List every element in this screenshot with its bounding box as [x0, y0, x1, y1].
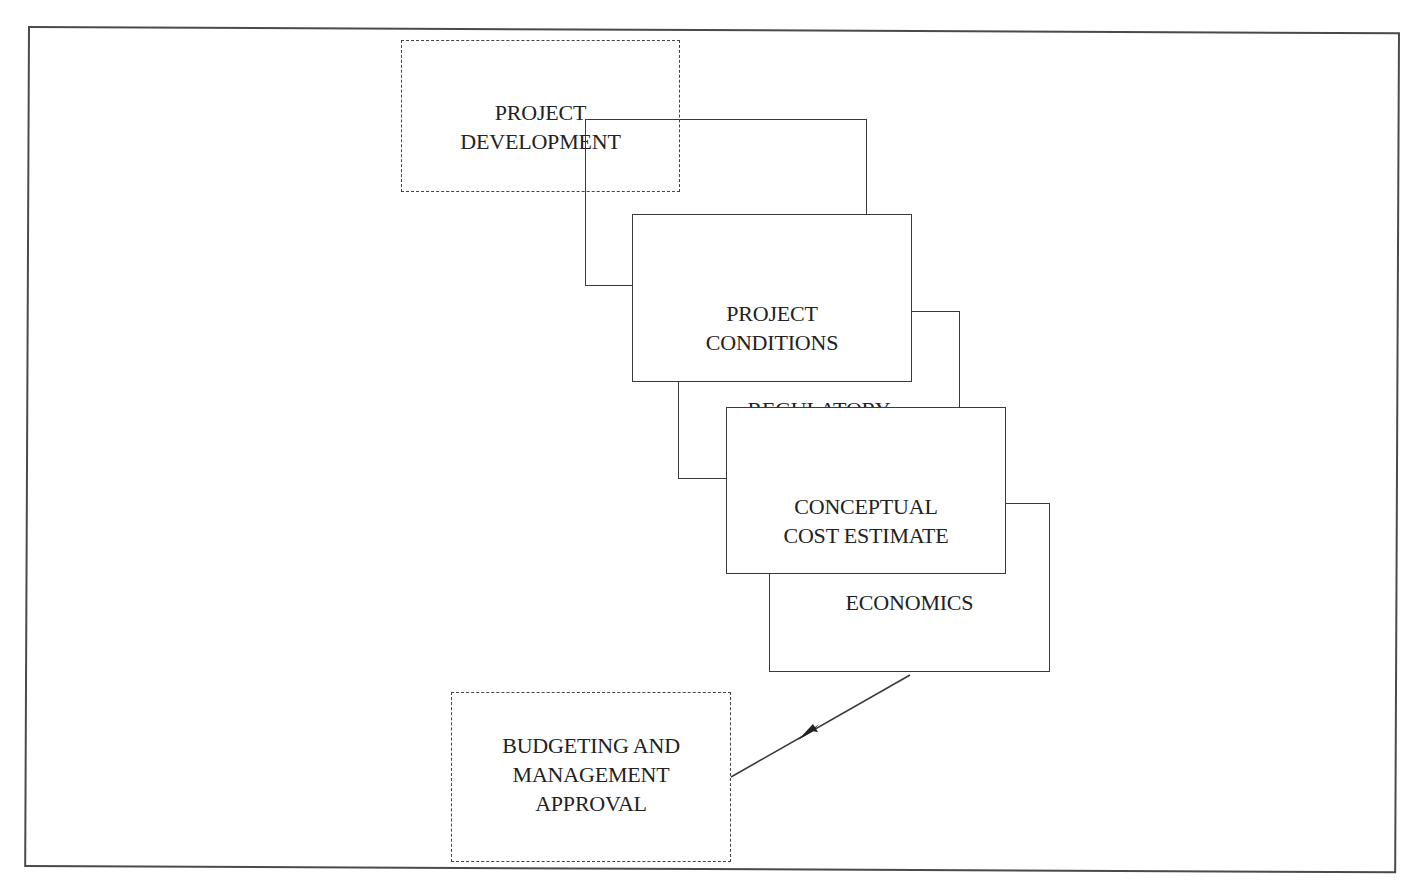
conceptual-cost-estimate-box: CONCEPTUAL COST ESTIMATE [726, 407, 1006, 574]
project-development-label: PROJECT DEVELOPMENT [460, 98, 620, 156]
conceptual-cost-estimate-label: CONCEPTUAL COST ESTIMATE [783, 492, 948, 550]
budgeting-management-approval-box: BUDGETING AND MANAGEMENT APPROVAL [451, 692, 731, 862]
budgeting-management-approval-label: BUDGETING AND MANAGEMENT APPROVAL [502, 731, 680, 818]
economics-label: ECONOMICS [846, 588, 974, 617]
project-development-box: PROJECT DEVELOPMENT [401, 40, 680, 192]
project-conditions-label: PROJECT CONDITIONS [706, 299, 838, 357]
project-conditions-box: PROJECT CONDITIONS [632, 214, 912, 382]
